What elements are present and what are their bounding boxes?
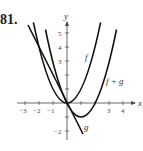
- x-axis-label: x: [137, 98, 142, 108]
- x-tick-label: −1: [47, 107, 55, 115]
- y-tick-label: 3: [58, 58, 62, 66]
- label-f: f: [85, 52, 89, 62]
- curve-g: [28, 25, 83, 134]
- x-tick-label: 4: [121, 107, 125, 115]
- y-tick-label: 4: [58, 44, 62, 52]
- label-f-plus-g: f + g: [106, 76, 124, 86]
- function-graph: x y −3 −2 −1 3 4 5 4 3 −2 f f + g g: [0, 0, 143, 151]
- x-tick-label: −2: [33, 107, 41, 115]
- y-axis-arrow-icon: [65, 21, 69, 26]
- x-tick-label: 3: [107, 107, 111, 115]
- x-tick-label: −3: [19, 107, 27, 115]
- y-tick-label: 5: [58, 30, 62, 38]
- label-g: g: [84, 122, 89, 132]
- y-tick-label: −2: [54, 128, 62, 136]
- y-axis-label: y: [63, 11, 68, 21]
- x-axis-arrow-icon: [131, 101, 136, 105]
